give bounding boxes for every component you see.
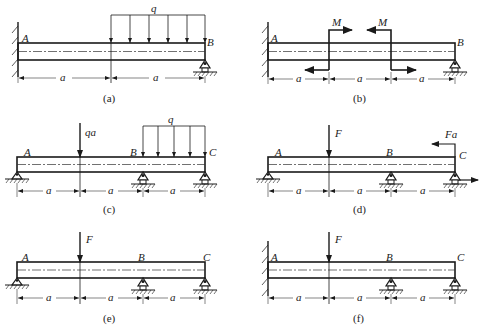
point-label-a: A	[270, 32, 278, 44]
moment-label: M	[377, 16, 388, 28]
roller-support-icon	[131, 278, 155, 294]
dim-label: a	[420, 184, 426, 196]
point-label-c: C	[459, 149, 467, 161]
dim-label: a	[357, 291, 363, 303]
roller-support-icon	[193, 60, 217, 76]
point-label-b: B	[457, 36, 464, 48]
point-label-a: A	[21, 251, 29, 263]
caption-b: (b)	[353, 92, 366, 105]
roller-support-icon	[193, 172, 217, 188]
dim-label: a	[419, 72, 425, 84]
roller-support-icon	[379, 172, 403, 188]
roller-support-icon	[443, 60, 467, 76]
pin-support-icon	[5, 172, 29, 183]
fixed-support-icon	[262, 241, 268, 296]
dim-label: a	[296, 291, 302, 303]
dim-label: a	[108, 184, 114, 196]
fixed-support-icon	[12, 22, 18, 77]
dim-label: a	[46, 291, 52, 303]
moment-label: M	[331, 16, 342, 28]
caption-d: (d)	[353, 203, 366, 216]
load-label-q: q	[168, 113, 174, 125]
caption-a: (a)	[103, 92, 116, 105]
pin-support-icon	[256, 172, 280, 183]
dim-label: a	[420, 291, 426, 303]
moment-couple-icon	[367, 30, 416, 70]
caption-c: (c)	[103, 203, 116, 216]
roller-support-icon	[379, 278, 403, 294]
dim-label: a	[153, 71, 159, 83]
distributed-load-q	[143, 126, 205, 157]
panel-c: qa q A B C a a a (c)	[5, 113, 217, 216]
moment-couple-icon	[305, 30, 352, 70]
point-label-a: A	[21, 32, 29, 44]
moment-label: Fa	[444, 128, 458, 140]
dim-label: a	[296, 184, 302, 196]
point-label-a: A	[274, 146, 282, 158]
dim-label: a	[170, 184, 176, 196]
dim-label: a	[170, 291, 176, 303]
roller-support-icon	[443, 278, 467, 294]
panel-e: F A B C a a a (e)	[5, 232, 217, 325]
panel-b: M M A B a a a (b)	[262, 16, 467, 105]
panel-a: q A B a a (a)	[12, 2, 217, 105]
dim-label: a	[357, 72, 363, 84]
beam-diagrams: q A B a a (a) M M A B	[0, 0, 480, 334]
dim-label: a	[357, 184, 363, 196]
dim-label: a	[60, 71, 66, 83]
load-label-q: q	[151, 2, 157, 14]
point-label-b: B	[138, 251, 145, 263]
point-label-c: C	[457, 251, 465, 263]
point-label-c: C	[203, 251, 211, 263]
point-label-b: B	[207, 36, 214, 48]
force-label: F	[334, 127, 342, 139]
panel-d: F Fa A B C a a a (d)	[256, 125, 478, 216]
point-label-b: B	[386, 251, 393, 263]
distributed-load-q	[111, 15, 205, 43]
panel-f: F A B C a a a (f)	[262, 232, 467, 325]
point-label-c: C	[209, 146, 217, 158]
dim-label: a	[108, 291, 114, 303]
caption-f: (f)	[353, 312, 364, 325]
point-label-b: B	[130, 146, 137, 158]
point-label-a: A	[270, 251, 278, 263]
force-label: qa	[85, 126, 97, 138]
caption-e: (e)	[103, 312, 116, 325]
point-label-a: A	[23, 146, 31, 158]
roller-support-icon	[193, 278, 217, 294]
point-label-b: B	[386, 146, 393, 158]
roller-support-icon	[131, 172, 155, 188]
dim-label: a	[46, 184, 52, 196]
pin-support-icon	[5, 278, 29, 289]
force-label: F	[334, 233, 342, 245]
force-label: F	[85, 233, 93, 245]
fixed-support-icon	[262, 22, 268, 77]
dim-label: a	[296, 72, 302, 84]
